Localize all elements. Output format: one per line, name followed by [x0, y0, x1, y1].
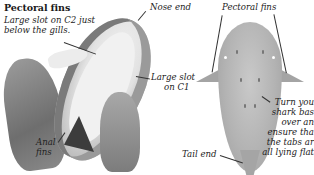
- label-slot-c1-line2: on C1: [164, 82, 189, 92]
- tab-mark: [240, 78, 242, 82]
- label-pectoral-fins: Pectoral fins: [222, 2, 276, 12]
- instruction-line: shark bas: [258, 107, 314, 117]
- right-hand-photo: [100, 92, 140, 172]
- leader-line: [138, 11, 146, 21]
- label-slot-c1-line1: Large slot: [151, 72, 195, 82]
- label-slot-c2-line2: below the gills.: [4, 25, 70, 35]
- label-nose-end: Nose end: [150, 2, 191, 12]
- label-tail-end: Tail end: [182, 149, 217, 159]
- tab-mark: [258, 78, 260, 82]
- instruction-line: the tabs ar: [258, 137, 314, 147]
- instruction-line: all lying flat: [258, 147, 314, 157]
- instruction-line: over an: [258, 117, 314, 127]
- label-anal-fins-line1: Anal: [36, 137, 56, 147]
- tab-mark: [254, 104, 256, 108]
- slot-hole: [224, 56, 227, 59]
- slot-hole: [272, 56, 275, 59]
- label-anal-fins-line2: fins: [36, 147, 52, 157]
- instruction-line: ensure tha: [258, 127, 314, 137]
- label-slot-c2-line1: Large slot on C2 just: [4, 15, 95, 25]
- tab-mark: [244, 104, 246, 108]
- tab-mark: [262, 50, 264, 54]
- section-heading: Pectoral fins: [4, 2, 70, 13]
- tab-mark: [236, 50, 238, 54]
